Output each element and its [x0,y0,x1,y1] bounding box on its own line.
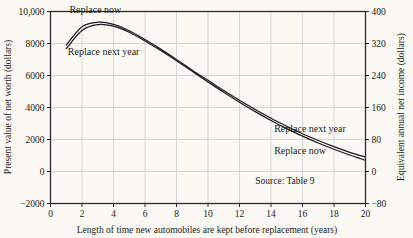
y-left-tick-label: 6000 [26,71,45,81]
source-note: Source: Table 9 [255,176,315,186]
x-tick-label: 6 [143,209,148,219]
x-tick-label: 14 [266,209,276,219]
chart-background [0,0,413,238]
y-left-tick-label: 8000 [26,39,45,49]
x-axis-title: Length of time new automobiles are kept … [77,225,337,236]
y-right-tick-label: 240 [372,71,387,81]
series-label-replace-now: Replace now [274,145,327,156]
y-left-tick-label: −2000 [20,199,45,209]
net-worth-vs-replacement-time-chart: 02468101214161820 −200002000400060008000… [0,0,413,238]
y-right-tick-label: 400 [372,7,387,17]
y-left-tick-label: 10,000 [18,7,44,17]
y-left-tick-label: 2000 [26,135,45,145]
series-label-replace-next-year: Replace next year [274,123,346,134]
x-tick-label: 2 [80,209,85,219]
x-tick-label: 10 [203,209,213,219]
x-tick-label: 0 [48,209,53,219]
x-tick-label: 18 [329,209,339,219]
y-right-tick-label: 80 [372,135,382,145]
x-tick-label: 20 [361,209,371,219]
y-axis-left-title: Present value of net worth (dollars) [3,40,14,174]
chart-figure: 02468101214161820 −200002000400060008000… [0,0,413,238]
x-tick-label: 8 [174,209,179,219]
y-right-tick-label: 0 [372,167,377,177]
y-right-tick-label: −80 [372,199,387,209]
y-right-tick-label: 160 [372,103,387,113]
y-left-tick-label: 4000 [26,103,45,113]
series-label-replace-now: Replace now [69,4,122,15]
series-label-replace-next-year: Replace next year [68,46,140,57]
x-tick-label: 4 [111,209,116,219]
x-tick-label: 12 [235,209,245,219]
y-right-tick-label: 320 [372,39,387,49]
x-tick-label: 16 [298,209,308,219]
y-left-tick-label: 0 [40,167,45,177]
y-axis-right-title: Equivalent annual net income (dollars) [396,33,407,181]
